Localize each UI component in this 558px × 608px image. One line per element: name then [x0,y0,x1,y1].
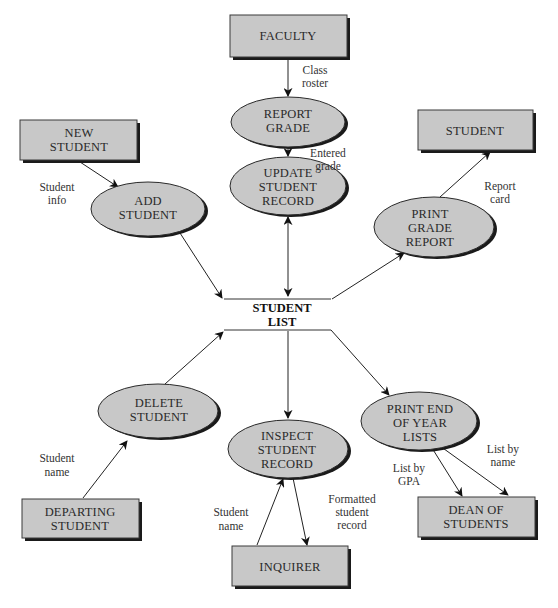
process-update-label-line3: RECORD [262,194,314,208]
process-print-grade-label-line1: PRINT [411,207,448,221]
entity-new-student-label-line1: NEW [64,126,93,140]
flow-label-list-by-gpa: List by GPA [393,462,426,487]
flow-label-entered-grade: Entered grade [310,147,346,173]
flow-label-class-roster: Class roster [302,64,328,89]
data-flow-diagram: STUDENT LIST FACULTY NEW STUDENT STUDENT… [0,0,558,608]
flow-list-by-gpa-arrow [432,448,462,496]
flow-list-to-print-grade-arrow [332,253,404,299]
svg-text:Student: Student [39,452,75,464]
flow-label-report-card: Report card [484,180,516,205]
process-inspect-label-line1: INSPECT [261,429,313,443]
process-update-label-line2: STUDENT [259,180,318,194]
svg-text:name: name [219,520,244,532]
svg-text:grade: grade [315,160,341,173]
entity-dean-of-students-label-line2: STUDENTS [443,517,509,531]
data-store-student-list[interactable]: STUDENT LIST [224,299,331,330]
flow-student-name-inspect-arrow [257,479,283,545]
svg-text:Student: Student [39,181,75,193]
process-print-grade-report[interactable]: PRINT GRADE REPORT [374,197,497,259]
process-add-student-label-line1: ADD [134,194,162,208]
process-inspect-label-line3: RECORD [261,457,313,471]
process-delete-student-label-line2: STUDENT [130,410,189,424]
svg-text:Report: Report [484,180,516,193]
process-print-grade-label-line2: GRADE [408,221,452,235]
process-inspect-label-line2: STUDENT [258,443,317,457]
process-report-grade-label-line2: GRADE [266,121,310,135]
entity-faculty-label: FACULTY [260,29,317,43]
entity-departing-student[interactable]: DEPARTING STUDENT [22,499,142,541]
svg-text:name: name [491,456,516,468]
svg-text:Class: Class [303,64,328,76]
svg-text:List by: List by [487,443,520,456]
flow-list-to-print-year-arrow [331,330,389,395]
process-add-student-label-line2: STUDENT [119,208,178,222]
data-store-label-line2: LIST [268,315,297,329]
flow-label-list-by-name: List by name [487,443,520,468]
svg-text:roster: roster [302,77,328,89]
process-delete-student[interactable]: DELETE STUDENT [98,384,221,440]
entity-new-student-label-line2: STUDENT [50,140,109,154]
entity-student-label: STUDENT [446,124,505,138]
flow-report-card-arrow [440,152,490,197]
flow-delete-to-list-arrow [165,332,223,384]
entity-dean-of-students-label-line1: DEAN OF [448,503,503,517]
svg-text:record: record [337,519,367,531]
process-inspect-student-record[interactable]: INSPECT STUDENT RECORD [228,420,351,480]
svg-text:name: name [45,466,70,478]
process-print-end-of-year-lists[interactable]: PRINT END OF YEAR LISTS [361,392,480,452]
entity-departing-student-label-line2: STUDENT [51,519,110,533]
flow-add-to-list-arrow [180,233,222,298]
process-print-grade-label-line3: REPORT [406,235,455,249]
process-report-grade-label-line1: REPORT [264,107,313,121]
svg-text:student: student [335,506,369,518]
process-report-grade[interactable]: REPORT GRADE [231,97,348,149]
process-print-year-label-line1: PRINT END [387,402,454,416]
flow-label-student-name-delete: Student name [39,452,75,478]
svg-text:List by: List by [393,462,426,475]
process-print-year-label-line3: LISTS [403,430,437,444]
svg-text:Entered: Entered [310,147,346,159]
svg-text:GPA: GPA [398,475,421,487]
entity-new-student[interactable]: NEW STUDENT [20,120,140,163]
entity-student[interactable]: STUDENT [418,110,536,153]
flow-student-info-arrow [80,162,118,187]
flow-label-formatted-student-record: Formatted student record [328,493,376,531]
svg-text:Formatted: Formatted [328,493,376,505]
flow-student-name-delete-arrow [83,441,127,498]
svg-text:Student: Student [213,506,249,518]
entity-inquirer[interactable]: INQUIRER [232,546,351,589]
process-update-label-line1: UPDATE [263,166,312,180]
entity-departing-student-label-line1: DEPARTING [45,505,116,519]
process-print-year-label-line2: OF YEAR [393,416,448,430]
entity-dean-of-students[interactable]: DEAN OF STUDENTS [418,497,538,540]
flow-label-student-info: Student info [39,181,75,206]
flow-label-student-name-inspect: Student name [213,506,249,532]
data-store-label-line1: STUDENT [252,301,312,315]
process-add-student[interactable]: ADD STUDENT [91,182,208,238]
process-delete-student-label-line1: DELETE [135,396,184,410]
flow-formatted-record-arrow [293,478,307,545]
svg-text:card: card [490,193,510,205]
entity-faculty[interactable]: FACULTY [230,15,350,60]
entity-inquirer-label: INQUIRER [259,560,321,574]
svg-text:info: info [48,194,67,206]
